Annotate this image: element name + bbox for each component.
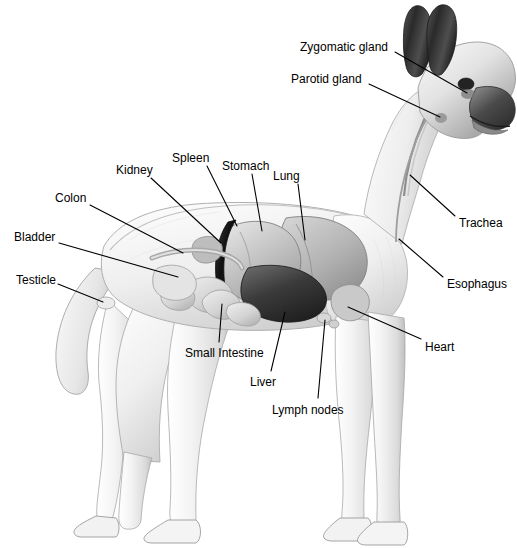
label-trachea: Trachea xyxy=(459,217,503,230)
hind-paw-far xyxy=(74,516,119,537)
hind-leg-near-lower xyxy=(119,452,152,529)
label-spleen: Spleen xyxy=(172,152,209,165)
heart-shape xyxy=(331,285,369,321)
label-parotid-gland: Parotid gland xyxy=(291,73,362,86)
label-small-intestine: Small Intestine xyxy=(185,347,264,360)
label-heart: Heart xyxy=(425,341,454,354)
anatomy-diagram: Zygomatic glandParotid glandKidneySpleen… xyxy=(0,0,517,548)
label-kidney: Kidney xyxy=(116,164,153,177)
label-zygomatic-gland: Zygomatic gland xyxy=(300,41,388,54)
testicle-shape xyxy=(97,297,115,309)
label-bladder: Bladder xyxy=(14,231,55,244)
label-liver: Liver xyxy=(250,376,276,389)
leader-line-trachea xyxy=(410,175,455,216)
eye-shape xyxy=(458,78,474,90)
label-lung: Lung xyxy=(273,170,300,183)
label-lymph-nodes: Lymph nodes xyxy=(272,404,344,417)
front-leg-near xyxy=(368,312,405,532)
label-testicle: Testicle xyxy=(16,274,56,287)
dog-body-group xyxy=(56,5,516,545)
label-esophagus: Esophagus xyxy=(447,278,507,291)
label-colon: Colon xyxy=(55,192,86,205)
parotid-gland-shape xyxy=(435,113,447,123)
hind-paw-near xyxy=(144,520,201,543)
label-stomach: Stomach xyxy=(222,160,269,173)
hind-leg-rear xyxy=(168,300,235,531)
dog-anatomy-illustration xyxy=(0,0,517,548)
leader-line-lymph-nodes xyxy=(318,320,325,398)
